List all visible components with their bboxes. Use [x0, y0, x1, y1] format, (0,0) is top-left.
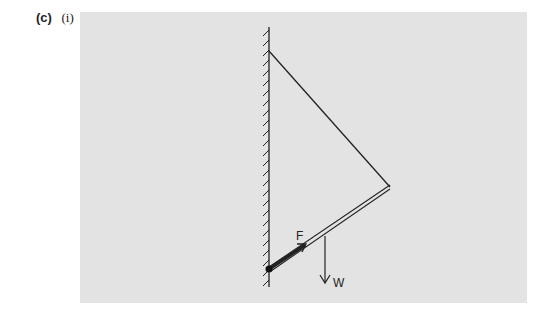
force-diagram: F W — [0, 0, 549, 309]
force-F-label: F — [296, 229, 303, 243]
wall — [263, 27, 269, 287]
force-F-arrow — [269, 244, 306, 269]
cable — [269, 51, 390, 187]
hinge-point — [266, 266, 273, 273]
weight-W-label: W — [333, 276, 345, 290]
weight-W-arrow — [320, 236, 330, 283]
